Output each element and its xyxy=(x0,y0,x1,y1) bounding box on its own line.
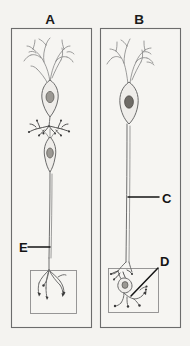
callout-label-e: E xyxy=(19,240,28,255)
nucleus-upper-a xyxy=(46,91,54,102)
panel-label-b: B xyxy=(134,12,144,27)
nucleus-b xyxy=(125,96,134,108)
neuron-comparison-figure: A xyxy=(0,0,190,346)
ganglion-nucleus-b xyxy=(122,282,128,289)
panel-label-a: A xyxy=(45,12,55,27)
callout-label-c: C xyxy=(162,191,172,206)
callout-label-d: D xyxy=(160,254,169,269)
nucleus-lower-a xyxy=(47,148,54,158)
panel-b-frame xyxy=(101,29,181,328)
